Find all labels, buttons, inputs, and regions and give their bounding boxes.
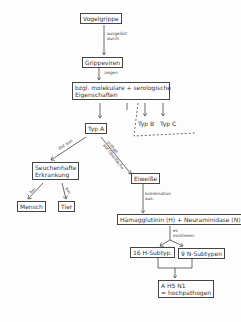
edge-label-es-existieren: es existieren: (173, 228, 195, 238)
edge-label-ausgeloest: ausgelöst durch (107, 31, 127, 41)
node-eiweisse: Eiweiße (131, 173, 160, 184)
node-tier: Tier (58, 201, 75, 212)
node-vogelgrippe-label: Vogelgrippe (83, 15, 119, 22)
node-typ-b: Typ B (138, 120, 154, 127)
node-mensch: Mensch (17, 201, 46, 212)
concept-map: Vogelgrippe ausgelöst durch Grippeviren … (0, 0, 241, 322)
node-vogelgrippe: Vogelgrippe (80, 13, 122, 24)
node-h-subtypen: 16 H-Subtyp. (130, 247, 175, 258)
node-typ-a: Typ A (85, 123, 107, 134)
node-grippeviren: Grippeviren (82, 57, 123, 68)
edge-label-zeigen: zeigen (104, 70, 118, 75)
node-eigenschaften: bzgl. molekulare + serologische Eigensch… (72, 82, 170, 100)
edge-label-kombination: kombination aus: (145, 191, 171, 201)
node-grippeviren-label: Grippeviren (85, 59, 120, 66)
node-haemagglutinin-neuraminidase: Hämagglutinin (H) + Neuraminidase (N) (117, 214, 241, 225)
node-seuchenhafte-erkrankung: Seuchenhafte Erkrankung (32, 162, 79, 180)
node-n-subtypen: 9 N-Subtypen (178, 248, 225, 259)
node-a-h5n1: A H5 N1 = hochpathogen (158, 280, 214, 298)
node-typ-c: Typ C (160, 120, 176, 127)
